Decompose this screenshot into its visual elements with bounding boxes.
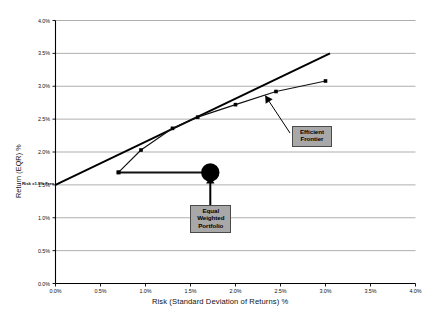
gridlines — [56, 21, 416, 251]
y-tick-label: 2.0% — [22, 149, 50, 155]
x-tick-label: 2.5% — [266, 288, 296, 294]
y-tick-label: 1.0% — [22, 215, 50, 221]
efficient-frontier-chart: Return (EQR) % Risk (Standard Deviation … — [0, 0, 434, 325]
x-tick-label: 0.0% — [41, 288, 71, 294]
frontier-point-0 — [117, 171, 121, 175]
chart-plot-area — [0, 0, 434, 325]
frontier-point-1 — [139, 148, 143, 152]
y-tick-label: 3.0% — [22, 83, 50, 89]
risk-free-line-1: Risk =1.5% — [22, 181, 44, 186]
x-tick-label: 1.5% — [176, 288, 206, 294]
efficient-frontier-callout: Efficient Frontier — [292, 126, 332, 147]
frontier-point-2 — [171, 127, 175, 131]
portfolio-connector-line — [117, 170, 211, 174]
x-tick-label: 2.0% — [221, 288, 251, 294]
y-tick-label: 2.5% — [22, 116, 50, 122]
callout-leader-arrows — [206, 95, 290, 205]
risk-free-rate-annotation: Risk =1.5% Free — [22, 181, 54, 186]
equal-weighted-callout-line-3: Portfolio — [193, 222, 228, 229]
x-tick-label: 1.0% — [131, 288, 161, 294]
efficient-frontier-callout-line-1: Efficient — [295, 128, 329, 135]
frontier-point-3 — [196, 115, 200, 119]
y-tick-label: 4.0% — [22, 18, 50, 24]
frontier-point-6 — [324, 79, 328, 83]
y-tick-label: 0.0% — [22, 281, 50, 287]
x-axis-title: Risk (Standard Deviation of Returns) % — [152, 297, 288, 306]
x-tick-label: 0.5% — [86, 288, 116, 294]
equal-weighted-portfolio-callout: Equal Weighted Portfolio — [190, 205, 231, 233]
equal-weighted-callout-line-1: Equal — [193, 207, 228, 214]
x-tick-label: 3.5% — [356, 288, 386, 294]
x-tick-label: 4.0% — [401, 288, 431, 294]
y-tick-label: 3.5% — [22, 50, 50, 56]
equal-weighted-callout-line-2: Weighted — [193, 214, 228, 221]
frontier-point-4 — [234, 103, 238, 107]
y-tick-label: 0.5% — [22, 248, 50, 254]
risk-free-line-2: Free — [45, 181, 54, 186]
efficient-frontier-callout-line-2: Frontier — [295, 135, 329, 142]
ef-arrow-head — [265, 95, 272, 103]
x-tick-label: 3.0% — [311, 288, 341, 294]
frontier-point-5 — [274, 90, 278, 94]
